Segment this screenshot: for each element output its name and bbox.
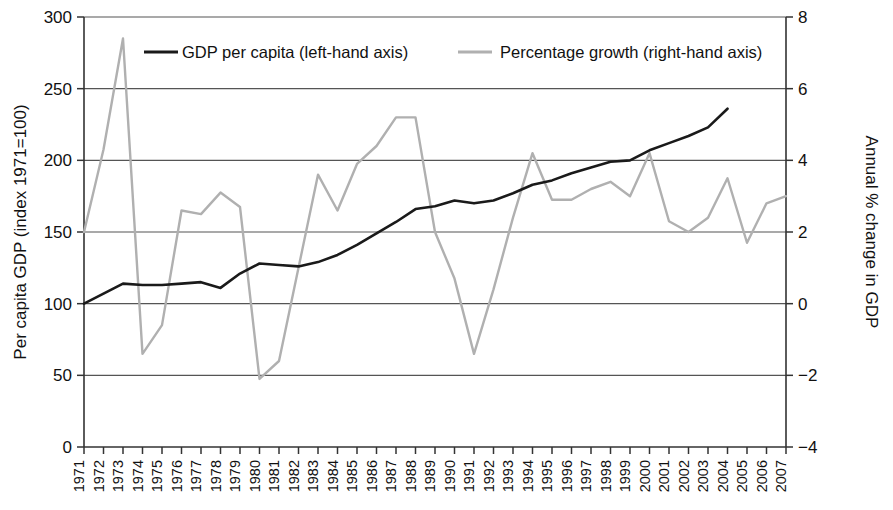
x-axis-tick-label: 1995 (539, 460, 555, 492)
x-axis-tick-label: 1976 (169, 460, 185, 492)
x-axis-tick-label: 1989 (422, 460, 438, 492)
x-axis-tick-label: 1974 (130, 460, 146, 492)
x-axis-tick-label: 1981 (266, 460, 282, 492)
x-axis-tick-label: 1986 (364, 460, 380, 492)
x-axis-tick-label: 1994 (520, 460, 536, 492)
x-axis-tick-label: 2002 (676, 460, 692, 492)
left-axis-tick-label: 250 (44, 80, 72, 99)
x-axis-tick-label: 2004 (715, 460, 731, 492)
x-axis-tick-label: 1980 (247, 460, 263, 492)
x-axis-tick-label: 1992 (481, 460, 497, 492)
x-axis-tick-label: 1993 (500, 460, 516, 492)
right-axis-tick-label: 4 (798, 151, 807, 170)
x-axis-tick-label: 2007 (773, 460, 789, 492)
right-axis-tick-label: −4 (798, 438, 817, 457)
left-axis-tick-label: 50 (53, 366, 72, 385)
right-axis-tick-label: 6 (798, 80, 807, 99)
x-axis-tick-label: 1983 (305, 460, 321, 492)
left-axis-tick-label: 200 (44, 151, 72, 170)
x-axis-tick-label: 1997 (578, 460, 594, 492)
x-axis-tick-label: 2006 (754, 460, 770, 492)
x-axis-tick-label: 1984 (325, 460, 341, 492)
right-axis-tick-label: 2 (798, 223, 807, 242)
x-axis-tick-label: 2001 (656, 460, 672, 492)
gdp-growth-line-chart: 050100150200250300 −4−202468 19711972197… (0, 0, 893, 510)
x-axis-tick-label: 1990 (442, 460, 458, 492)
x-axis-tick-label: 1999 (617, 460, 633, 492)
x-axis-tick-label: 1987 (383, 460, 399, 492)
x-axis-tick-label: 1985 (344, 460, 360, 492)
x-axis-tick-label: 1972 (91, 460, 107, 492)
x-axis-tick-label: 1998 (598, 460, 614, 492)
x-axis-tick-label: 1979 (227, 460, 243, 492)
right-axis-tick-label: 8 (798, 8, 807, 27)
x-axis-tick-label: 1982 (286, 460, 302, 492)
chart-background (0, 0, 893, 510)
x-axis-tick-label: 1991 (461, 460, 477, 492)
left-axis-tick-label: 150 (44, 223, 72, 242)
x-axis-tick-label: 1975 (149, 460, 165, 492)
right-axis-tick-label: −2 (798, 366, 817, 385)
x-axis-tick-label: 1973 (110, 460, 126, 492)
x-axis-tick-label: 1977 (188, 460, 204, 492)
x-axis-tick-label: 2005 (734, 460, 750, 492)
x-axis-tick-label: 2000 (637, 460, 653, 492)
left-axis-tick-label: 300 (44, 8, 72, 27)
x-axis-tick-labels: 1971197219731974197519761977197819791980… (71, 460, 789, 492)
left-axis-title: Per capita GDP (index 1971=100) (11, 104, 30, 359)
left-axis-tick-label: 0 (63, 438, 72, 457)
right-axis-title: Annual % change in GDP (862, 136, 881, 329)
legend-label-gdp-per-capita: GDP per capita (left-hand axis) (182, 43, 408, 61)
right-axis-tick-label: 0 (798, 295, 807, 314)
x-axis-tick-label: 1988 (403, 460, 419, 492)
x-axis-tick-label: 2003 (695, 460, 711, 492)
x-axis-tick-label: 1996 (559, 460, 575, 492)
legend-label-percentage-growth: Percentage growth (right-hand axis) (500, 43, 762, 61)
left-axis-tick-label: 100 (44, 295, 72, 314)
chart-container: 050100150200250300 −4−202468 19711972197… (0, 0, 893, 510)
x-axis-tick-label: 1978 (208, 460, 224, 492)
x-axis-tick-label: 1971 (71, 460, 87, 492)
